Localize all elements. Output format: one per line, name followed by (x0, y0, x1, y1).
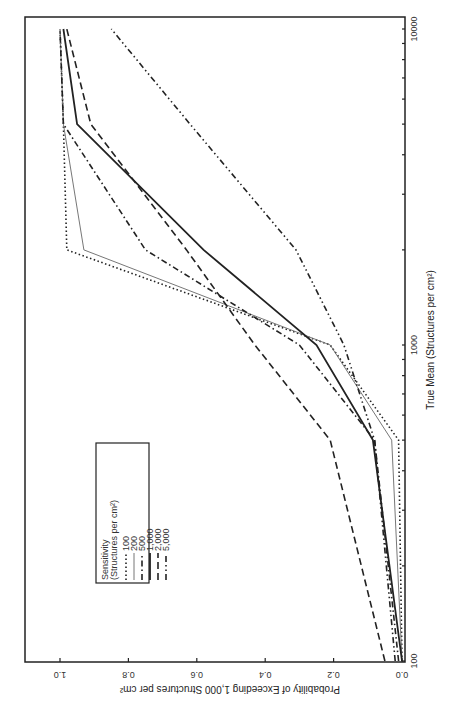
y-tick-label: 0.0 (396, 670, 409, 680)
x-axis-title: True Mean (Structures per cm²) (425, 270, 436, 410)
y-tick-label: 0.4 (259, 670, 272, 680)
x-tick-label: 100 (409, 653, 419, 668)
legend-item-label: 5,000 (161, 528, 171, 551)
legend: Sensitivity (Structures per cm²) 1002005… (96, 443, 171, 583)
series-line-5000 (111, 29, 395, 661)
y-tick-label: 0.8 (122, 670, 135, 680)
y-tick-label: 0.2 (327, 670, 340, 680)
legend-subtitle: (Structures per cm²) (109, 500, 119, 580)
y-axis-title: Probability of Exceeding 1,000 Structure… (119, 684, 340, 695)
plot-frame (25, 17, 405, 662)
y-tick-label: 0.6 (191, 670, 204, 680)
x-tick-label: 1000 (409, 335, 419, 355)
probability-chart: 100100010000 0.00.20.40.60.81.0 True Mea… (0, 0, 457, 709)
x-tick-label: 10000 (409, 16, 419, 41)
y-tick-label: 1.0 (54, 670, 67, 680)
